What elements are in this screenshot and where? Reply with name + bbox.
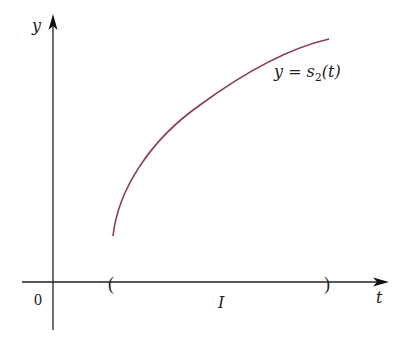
graph-figure: y t 0 ( ) I y = s2(t) xyxy=(0,0,406,359)
interval-close-bracket: ) xyxy=(324,274,330,295)
origin-label: 0 xyxy=(34,291,42,308)
interval-label: I xyxy=(217,293,225,312)
x-axis-label: t xyxy=(376,288,383,307)
y-axis-label: y xyxy=(31,16,42,35)
curve-label: y = s2(t) xyxy=(273,62,341,84)
interval-open-bracket: ( xyxy=(108,274,114,295)
